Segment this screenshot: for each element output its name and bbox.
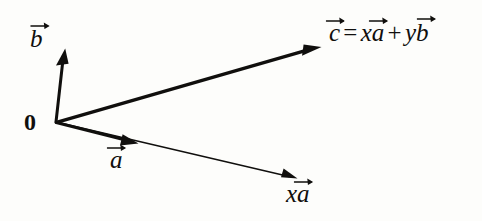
vector-b-shaft	[56, 63, 63, 122]
vector-a-glyph: a	[297, 181, 310, 206]
vector-c-arrowhead	[302, 44, 322, 55]
vector-a	[56, 122, 138, 145]
equation-term2-coefficient: y	[405, 19, 416, 46]
vector-a-glyph: a	[372, 20, 385, 45]
label-vector-xa: x a	[286, 181, 310, 206]
label-vector-a-letter: a	[110, 146, 123, 173]
label-vector-b-letter: b	[30, 25, 43, 52]
vector-diagram-figure: b 0 a x a c =x	[0, 0, 482, 221]
equation-term1-coefficient: x	[361, 19, 372, 46]
vector-c	[57, 44, 322, 122]
vector-a-glyph: a	[110, 147, 123, 172]
equation-term2-letter: b	[416, 19, 429, 46]
vector-c-glyph: c	[329, 20, 340, 45]
label-xa-coefficient: x	[286, 180, 297, 207]
equation-equals-sign: =	[343, 19, 357, 46]
vector-c-shaft	[57, 50, 309, 123]
equation-term1-letter: a	[372, 19, 385, 46]
label-vector-b: b	[30, 26, 43, 51]
vector-a-arrowhead	[120, 134, 139, 145]
vector-b-glyph: b	[416, 20, 429, 45]
label-vector-a: a	[110, 147, 123, 172]
equation-lhs-letter: c	[329, 19, 340, 46]
vector-b-glyph: b	[30, 26, 43, 51]
label-equation: c =x a +y b	[329, 20, 429, 45]
vector-xa-arrowhead	[281, 169, 298, 179]
vector-b-arrowhead	[56, 49, 69, 66]
equation-plus-sign: +	[388, 19, 402, 46]
vector-a-shaft	[56, 122, 125, 140]
label-origin: 0	[24, 110, 36, 134]
label-xa-letter: a	[297, 180, 310, 207]
vector-b	[56, 49, 69, 123]
